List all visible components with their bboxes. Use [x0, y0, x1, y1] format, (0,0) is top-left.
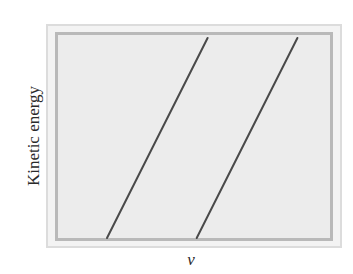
chart-figure: Kinetic energy ν [0, 0, 353, 274]
series-line-2 [197, 38, 298, 238]
plot-lines [0, 0, 353, 274]
x-axis-label: ν [187, 250, 195, 270]
series-layer [107, 38, 297, 238]
y-axis-label: Kinetic energy [24, 86, 44, 186]
series-line-1 [107, 38, 208, 238]
